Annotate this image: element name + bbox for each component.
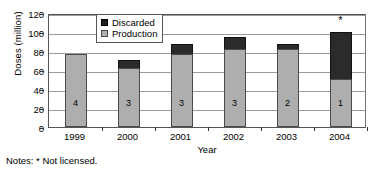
y-tick-label: 100 [4, 29, 44, 39]
bar-value-label: 3 [119, 98, 139, 108]
bar-stack[interactable]: 1 [330, 32, 352, 127]
bar-group-2004[interactable]: *1 [314, 15, 367, 127]
x-tick-label-1999: 1999 [45, 131, 105, 142]
y-tick-mark [40, 33, 44, 34]
bar-value-label: 3 [225, 98, 245, 108]
bar-segment-discarded[interactable] [118, 60, 140, 69]
bar-segment-discarded[interactable] [330, 32, 352, 79]
y-tick-mark [40, 128, 44, 129]
y-tick-label: 0 [4, 124, 44, 134]
y-tick-label: 80 [4, 48, 44, 58]
asterisk-annotation: * [338, 17, 342, 23]
bar-group-2002[interactable]: 3 [208, 15, 261, 127]
bar-group-1999[interactable]: 4 [49, 15, 102, 127]
bar-value-label: 2 [278, 98, 298, 108]
dark-square-swatch-icon [101, 19, 108, 26]
y-tick-label: 40 [4, 86, 44, 96]
bar-segment-production[interactable]: 3 [171, 54, 193, 127]
legend-item-production: Production [101, 28, 157, 39]
bar-segment-discarded[interactable] [224, 37, 246, 49]
bar-segment-discarded[interactable] [171, 44, 193, 54]
y-tick-mark [40, 71, 44, 72]
x-tick-label-2002: 2002 [204, 131, 264, 142]
bar-segment-production[interactable]: 1 [330, 79, 352, 127]
bar-stack[interactable]: 3 [224, 37, 246, 127]
bar-value-label: 4 [66, 98, 86, 108]
chart-footnote: Notes: * Not licensed. [6, 155, 97, 166]
vaccine-doses-stacked-bar-chart: Doses (million) 020406080100120 43332*1 … [0, 0, 377, 171]
bar-stack[interactable]: 4 [65, 54, 87, 127]
y-tick-mark [40, 90, 44, 91]
bar-segment-production[interactable]: 3 [224, 49, 246, 127]
y-tick-label: 20 [4, 105, 44, 115]
bar-stack[interactable]: 3 [118, 60, 140, 127]
legend-item-discarded: Discarded [101, 17, 157, 28]
y-tick-mark [40, 14, 44, 15]
bar-value-label: 3 [172, 98, 192, 108]
gray-square-swatch-icon [101, 30, 108, 37]
x-tick-label-2003: 2003 [257, 131, 317, 142]
x-tick-label-2004: 2004 [310, 131, 370, 142]
bar-stack[interactable]: 2 [277, 44, 299, 127]
y-tick-mark [40, 109, 44, 110]
bar-segment-production[interactable]: 4 [65, 54, 87, 127]
bar-segment-production[interactable]: 2 [277, 49, 299, 127]
x-axis-title: Year [48, 144, 366, 155]
bar-group-2003[interactable]: 2 [261, 15, 314, 127]
y-tick-label: 120 [4, 10, 44, 20]
chart-legend: Discarded Production [96, 14, 163, 43]
bar-segment-production[interactable]: 3 [118, 68, 140, 127]
y-axis-tick-labels: 020406080100120 [0, 14, 44, 128]
x-tick-label-2000: 2000 [98, 131, 158, 142]
bar-value-label: 1 [331, 98, 351, 108]
legend-label-production: Production [112, 29, 157, 39]
x-tick-label-2001: 2001 [151, 131, 211, 142]
legend-label-discarded: Discarded [112, 18, 155, 28]
bar-stack[interactable]: 3 [171, 44, 193, 127]
y-tick-label: 60 [4, 67, 44, 77]
y-tick-mark [40, 52, 44, 53]
